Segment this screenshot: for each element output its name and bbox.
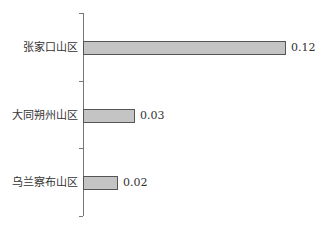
bar <box>83 109 135 123</box>
y-axis-tick <box>79 216 83 217</box>
value-label: 0.03 <box>140 109 165 123</box>
y-axis-tick <box>79 81 83 82</box>
bar <box>83 41 286 55</box>
bar <box>83 176 118 190</box>
y-axis-tick <box>79 148 83 149</box>
category-label: 张家口山区 <box>23 41 78 55</box>
value-label: 0.12 <box>291 41 316 55</box>
category-label: 大同朔州山区 <box>12 109 78 123</box>
y-axis-tick <box>79 13 83 14</box>
category-label: 乌兰察布山区 <box>12 176 78 190</box>
value-label: 0.02 <box>123 176 148 190</box>
